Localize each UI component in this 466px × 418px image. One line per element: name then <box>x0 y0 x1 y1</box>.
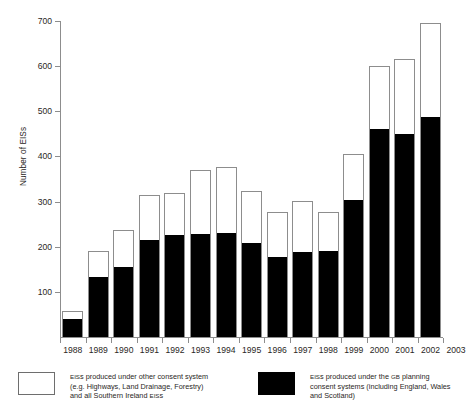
legend-text-line2: (e.g. Highways, Land Drainage, Forestry) <box>70 382 208 392</box>
y-axis-tick-label: 300 <box>6 197 52 207</box>
x-axis-tick-label: 1991 <box>140 345 159 355</box>
y-axis-tick-label: 400 <box>6 151 52 161</box>
x-axis-tick <box>213 338 214 343</box>
x-axis-tick-label: 2000 <box>370 345 389 355</box>
x-axis-tick-label: 2001 <box>395 345 414 355</box>
bar-segment-gb-planning <box>89 277 108 337</box>
y-axis-tick-label: 600 <box>6 61 52 71</box>
x-axis-tick <box>239 338 240 343</box>
x-axis-line <box>60 337 443 338</box>
bar-segment-gb-planning <box>140 240 159 337</box>
y-axis-tick-label: 200 <box>6 242 52 252</box>
legend-label-other-consent: EISs produced under other consent system… <box>70 372 208 401</box>
legend-text2-line1-d: planning <box>400 372 430 381</box>
y-axis-tick <box>55 156 61 157</box>
bar-segment-gb-planning <box>293 252 312 337</box>
legend-text2-line3: and Scotland) <box>310 391 450 401</box>
x-axis-tick <box>418 338 419 343</box>
bar-segment-gb-planning <box>370 129 389 337</box>
bar-segment-gb-planning <box>344 200 363 337</box>
y-axis-tick <box>55 247 61 248</box>
x-axis-tick <box>290 338 291 343</box>
x-axis-tick-label: 1996 <box>268 345 287 355</box>
bar-segment-gb-planning <box>395 134 414 337</box>
y-axis-tick <box>55 202 61 203</box>
legend-text-line3-c: s <box>160 391 164 400</box>
x-axis-tick <box>367 338 368 343</box>
y-axis-tick-label: 100 <box>6 287 52 297</box>
x-axis-tick-label: 1999 <box>344 345 363 355</box>
bar-segment-gb-planning <box>63 319 82 337</box>
x-axis-tick-end <box>443 338 444 343</box>
legend-text2-line1-c: GB <box>391 373 400 380</box>
x-axis-tick-label: 1998 <box>319 345 338 355</box>
x-axis-tick <box>341 338 342 343</box>
legend-text-line3-a: and all Southern Ireland <box>70 391 150 400</box>
legend-swatch-filled-square <box>258 372 295 395</box>
y-axis-tick-label: 500 <box>6 106 52 116</box>
bar-segment-gb-planning <box>217 233 236 337</box>
legend-text-line1-a: EIS <box>70 373 80 380</box>
x-axis-tick-label: 2002 <box>421 345 440 355</box>
y-axis-tick <box>55 21 61 22</box>
x-axis-tick-label: 1990 <box>114 345 133 355</box>
legend-text2-line1-b: s produced under the <box>320 372 391 381</box>
legend-text-line1-b: s produced under other consent system <box>80 372 208 381</box>
x-axis-tick-label: 1994 <box>217 345 236 355</box>
legend-text2-line1-a: EIS <box>310 373 320 380</box>
legend-label-gb-planning: EISs produced under the GB planning cons… <box>310 372 450 401</box>
bar-segment-gb-planning <box>319 251 338 337</box>
legend-swatch-open-square <box>18 372 55 395</box>
legend-text-line3-b: EIS <box>150 392 160 399</box>
x-axis-tick <box>137 338 138 343</box>
x-axis-tick-label: 1995 <box>242 345 261 355</box>
x-axis-tick <box>188 338 189 343</box>
bar-segment-gb-planning <box>421 117 440 337</box>
bar-segment-gb-planning <box>268 257 287 337</box>
y-axis-tick <box>55 111 61 112</box>
x-axis-tick <box>60 338 61 343</box>
x-axis-tick-label: 1988 <box>63 345 82 355</box>
chart-legend: EISs produced under other consent system… <box>0 368 457 418</box>
x-axis-tick <box>162 338 163 343</box>
bar-segment-gb-planning <box>165 235 184 337</box>
y-axis-tick-label: 700 <box>6 16 52 26</box>
x-axis-tick-label: 1997 <box>293 345 312 355</box>
y-axis-line <box>60 21 61 338</box>
x-axis-tick-label: 1989 <box>89 345 108 355</box>
bar-segment-gb-planning <box>191 234 210 337</box>
bar-segment-gb-planning <box>114 267 133 337</box>
x-axis-tick <box>86 338 87 343</box>
y-axis-tick <box>55 66 61 67</box>
bar-segment-gb-planning <box>242 243 261 337</box>
x-axis-tick <box>316 338 317 343</box>
x-axis-tick <box>392 338 393 343</box>
x-axis-tick-label: 1993 <box>191 345 210 355</box>
x-axis-tick <box>264 338 265 343</box>
legend-text2-line2: consent systems (including England, Wale… <box>310 382 450 392</box>
x-axis-tick-label: 2003 <box>446 345 465 355</box>
y-axis-tick <box>55 292 61 293</box>
x-axis-tick <box>111 338 112 343</box>
x-axis-tick-label: 1992 <box>165 345 184 355</box>
